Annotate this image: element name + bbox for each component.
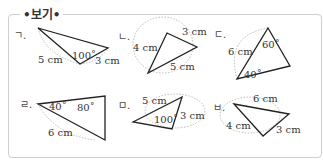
svg-text:80˚: 80˚: [77, 102, 95, 113]
svg-text:6 cm: 6 cm: [228, 46, 253, 57]
svg-text:5 cm: 5 cm: [38, 54, 63, 65]
svg-text:3 cm: 3 cm: [276, 124, 301, 135]
svg-text:4 cm: 4 cm: [226, 120, 251, 131]
svg-text:100˚: 100˚: [154, 114, 178, 125]
svg-text:6 cm: 6 cm: [253, 93, 278, 104]
triangles-figure: 5 cm 100˚ 3 cm 4 cm 3 cm 5 cm 6 cm 60˚ 4…: [0, 0, 323, 162]
svg-text:60˚: 60˚: [262, 39, 280, 50]
svg-text:3 cm: 3 cm: [182, 26, 207, 37]
svg-text:5 cm: 5 cm: [170, 61, 195, 72]
svg-text:3 cm: 3 cm: [180, 110, 205, 121]
svg-text:40˚: 40˚: [244, 69, 262, 80]
svg-text:40˚: 40˚: [49, 101, 67, 112]
svg-text:3 cm: 3 cm: [95, 55, 120, 66]
svg-text:5 cm: 5 cm: [142, 95, 167, 106]
svg-text:100˚: 100˚: [72, 50, 96, 61]
svg-text:6 cm: 6 cm: [48, 127, 73, 138]
svg-text:4 cm: 4 cm: [133, 42, 158, 53]
